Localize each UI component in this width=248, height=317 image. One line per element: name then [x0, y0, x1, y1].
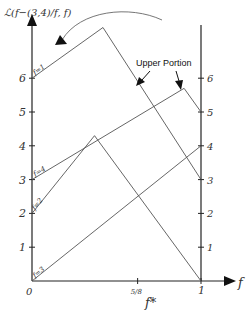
- x-tick-label: 5/8: [131, 288, 143, 296]
- left-tick-label: 4: [18, 140, 26, 153]
- curved-arrow-head-icon: [55, 35, 67, 45]
- curved-arrow: [62, 12, 162, 40]
- diagram-canvas: 123456 123456 5/81 f=1f=4f=2f=3 ℒ(f−(3,4…: [0, 0, 248, 317]
- curve-f-2: [32, 136, 201, 281]
- y-axis-label: ℒ(f−(3,4)/f, f): [4, 7, 71, 18]
- left-tick-label: 2: [18, 207, 26, 220]
- x-star-label: f*: [144, 295, 157, 310]
- curve-label: f=4: [31, 165, 47, 179]
- left-tick-label: 5: [19, 106, 26, 119]
- right-tick-label: 5: [207, 107, 213, 118]
- left-tick-label: 3: [19, 174, 26, 187]
- origin-label: 0: [26, 286, 33, 297]
- upper-portion-arrow-left: [142, 71, 150, 80]
- upper-portion-label: Upper Portion: [136, 58, 192, 68]
- right-tick-label: 1: [207, 242, 213, 253]
- right-tick-label: 3: [207, 175, 213, 186]
- x-axis-label: f: [237, 275, 245, 290]
- curve-label: f=1: [31, 63, 47, 78]
- curve-f-1: [32, 28, 201, 180]
- x-axis-arrow-icon: [224, 276, 236, 286]
- upper-portion-arrow-right: [176, 71, 179, 81]
- arrow-head-right-icon: [175, 80, 183, 90]
- left-tick-label: 6: [19, 72, 26, 85]
- right-tick-label: 2: [206, 208, 213, 219]
- left-tick-label: 1: [19, 241, 26, 254]
- curve-label: f=3: [30, 265, 46, 280]
- x-tick-label: 1: [198, 284, 205, 297]
- right-tick-label: 6: [207, 73, 214, 84]
- right-tick-label: 4: [206, 141, 213, 152]
